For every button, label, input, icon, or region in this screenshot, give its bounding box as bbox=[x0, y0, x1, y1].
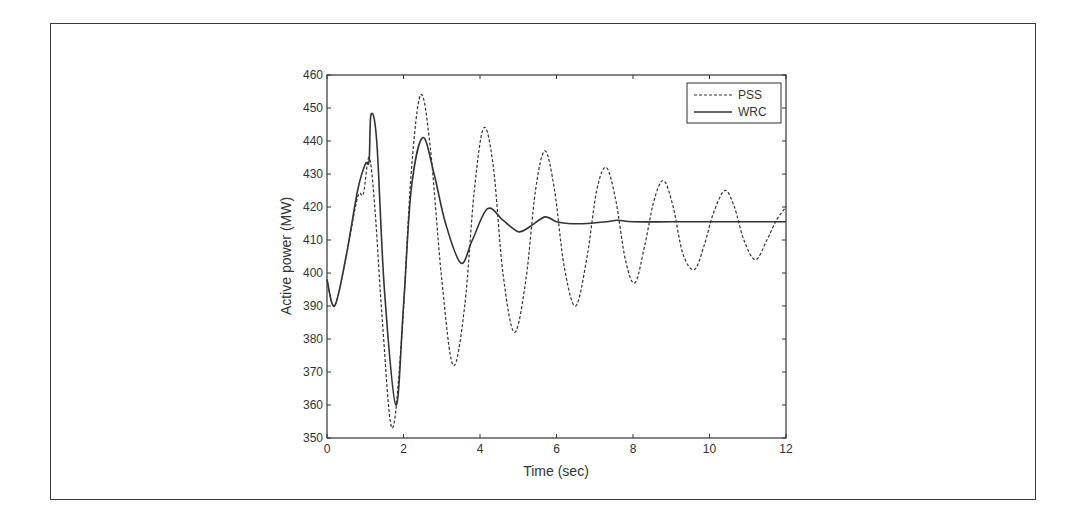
x-axis-label: Time (sec) bbox=[523, 463, 589, 479]
y-tick-label: 360 bbox=[303, 398, 323, 412]
x-tick-label: 12 bbox=[779, 442, 793, 456]
y-axis-label: Active power (MW) bbox=[278, 197, 294, 315]
x-tick-label: 8 bbox=[630, 442, 637, 456]
y-tick-label: 350 bbox=[303, 431, 323, 445]
x-tick-label: 6 bbox=[553, 442, 560, 456]
y-tick-label: 440 bbox=[303, 134, 323, 148]
x-tick-label: 2 bbox=[400, 442, 407, 456]
y-tick-label: 450 bbox=[303, 101, 323, 115]
legend-wrc-label: WRC bbox=[738, 105, 767, 119]
y-tick-label: 460 bbox=[303, 68, 323, 82]
legend-pss-label: PSS bbox=[738, 88, 762, 102]
plot-box bbox=[327, 75, 786, 438]
line-chart: 0246810123503603703803904004104204304404… bbox=[0, 0, 1075, 530]
y-tick-label: 390 bbox=[303, 299, 323, 313]
y-tick-label: 430 bbox=[303, 167, 323, 181]
y-tick-label: 380 bbox=[303, 332, 323, 346]
y-tick-label: 400 bbox=[303, 266, 323, 280]
y-tick-label: 410 bbox=[303, 233, 323, 247]
y-tick-label: 370 bbox=[303, 365, 323, 379]
x-tick-label: 0 bbox=[324, 442, 331, 456]
plot-area bbox=[327, 75, 786, 438]
x-tick-label: 10 bbox=[703, 442, 717, 456]
legend: PSS WRC bbox=[687, 83, 781, 123]
x-tick-label: 4 bbox=[477, 442, 484, 456]
legend-box bbox=[687, 83, 781, 123]
y-tick-label: 420 bbox=[303, 200, 323, 214]
